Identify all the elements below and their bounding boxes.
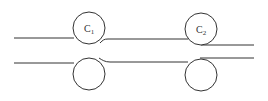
bottom-strip-line-mid bbox=[99, 58, 188, 62]
roller-diagram: C1 C2 bbox=[0, 0, 268, 101]
top-strip-line-mid bbox=[100, 39, 188, 43]
roller-bottom-1 bbox=[73, 58, 105, 90]
roller-bottom-2 bbox=[185, 59, 217, 91]
